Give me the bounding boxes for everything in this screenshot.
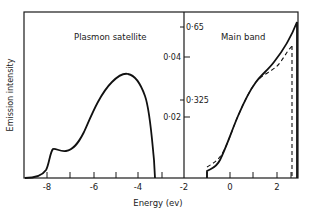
main-band-label: Main band xyxy=(221,32,265,42)
y-tick-label: 0·65 xyxy=(186,23,204,32)
x-tick-label: -2 xyxy=(180,182,188,192)
x-tick-labels: -8 -6 -4 -2 0 2 xyxy=(43,182,280,192)
x-axis-title: Energy (ev) xyxy=(133,198,182,208)
x-tick-label: -8 xyxy=(43,182,51,192)
x-axis-ticks xyxy=(47,172,291,178)
y-tick-label: 0·02 xyxy=(163,113,181,122)
inner-axis-labels: 0·65 0·04 0·325 0·02 xyxy=(163,23,209,122)
x-tick-label: 2 xyxy=(274,182,279,192)
y-axis-title: Emission intensity xyxy=(6,58,15,131)
x-tick-label: -4 xyxy=(134,182,142,192)
main-band-dashed-curve xyxy=(207,46,292,167)
plasmon-satellite-curve xyxy=(25,74,155,178)
main-band-solid-curve xyxy=(207,22,297,178)
emission-spectrum-chart: -8 -6 -4 -2 0 2 0·65 0·04 0·325 0·02 Pla… xyxy=(0,0,320,216)
x-tick-label: 0 xyxy=(227,182,232,192)
x-tick-label: -6 xyxy=(90,182,98,192)
y-tick-label: 0·04 xyxy=(163,53,181,62)
plasmon-satellite-label: Plasmon satellite xyxy=(74,32,147,42)
y-tick-label: 0·325 xyxy=(186,96,209,105)
